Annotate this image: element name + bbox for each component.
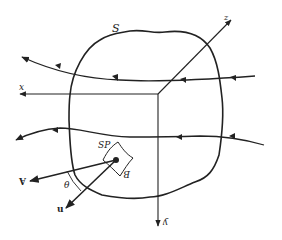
flux-diagram: S x z y SP B A u θ bbox=[0, 0, 282, 240]
label-theta: θ bbox=[64, 180, 70, 190]
label-S: S bbox=[112, 22, 120, 35]
label-z: z bbox=[223, 13, 229, 22]
label-y: y bbox=[162, 218, 169, 228]
label-A: A bbox=[18, 176, 27, 186]
label-x: x bbox=[19, 82, 24, 92]
label-u: u bbox=[57, 204, 64, 214]
label-B: B bbox=[123, 169, 131, 179]
closed-surface bbox=[69, 31, 223, 199]
label-SP: SP bbox=[98, 140, 111, 150]
